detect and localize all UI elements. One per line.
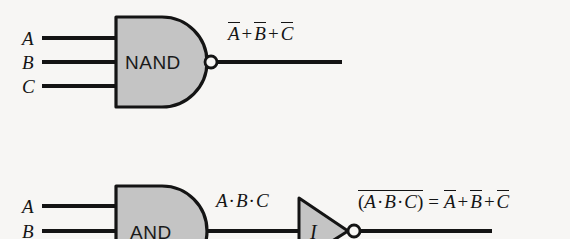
expr-operator-dot-4: · bbox=[396, 191, 404, 212]
expr-term-c2: C bbox=[404, 191, 417, 212]
expr-term-c-bar: C bbox=[281, 22, 294, 43]
expr-term-a2: A bbox=[364, 191, 376, 212]
expr-operator-plus-2: + bbox=[266, 23, 281, 44]
expr-operator-plus-1: + bbox=[240, 23, 255, 44]
logic-gate-figure: A B C NAND A+B+C A B AND I A·B·C (A·B·C)… bbox=[0, 0, 570, 239]
nand-input-label-c: C bbox=[22, 77, 35, 96]
expr-term-b2: B bbox=[384, 191, 396, 212]
expr-term-c: C bbox=[256, 190, 269, 211]
expr-term-b-bar-2: B bbox=[470, 190, 482, 211]
expr-operator-dot-1: · bbox=[228, 190, 236, 211]
inverter-label: I bbox=[310, 222, 317, 239]
nand-inversion-bubble bbox=[205, 56, 217, 68]
expr-negated-product: (A·B·C) bbox=[358, 190, 423, 211]
expr-term-b: B bbox=[236, 190, 248, 211]
nand-input-label-b: B bbox=[22, 53, 34, 72]
inverter-output-expression: (A·B·C)=A+B+C bbox=[358, 190, 509, 213]
and-gate-label: AND bbox=[130, 222, 172, 239]
expr-term-a-bar-2: A bbox=[444, 190, 456, 211]
inverter-bubble bbox=[348, 225, 360, 237]
expr-operator-plus-3: + bbox=[456, 191, 471, 212]
and-input-label-a: A bbox=[22, 197, 34, 216]
expr-term-a-bar: A bbox=[228, 22, 240, 43]
inverter-body bbox=[299, 198, 348, 239]
expr-term-a: A bbox=[216, 190, 228, 211]
expr-term-b-bar: B bbox=[254, 22, 266, 43]
and-intermediate-expression: A·B·C bbox=[216, 190, 269, 212]
expr-operator-plus-4: + bbox=[482, 191, 497, 212]
expr-operator-dot-2: · bbox=[248, 190, 256, 211]
nand-input-label-a: A bbox=[22, 29, 34, 48]
nand-gate-label: NAND bbox=[125, 52, 181, 74]
expr-operator-equals: = bbox=[423, 191, 444, 212]
expr-term-c-bar-2: C bbox=[497, 190, 510, 211]
nand-output-expression: A+B+C bbox=[228, 22, 293, 45]
and-input-label-b: B bbox=[22, 222, 34, 239]
